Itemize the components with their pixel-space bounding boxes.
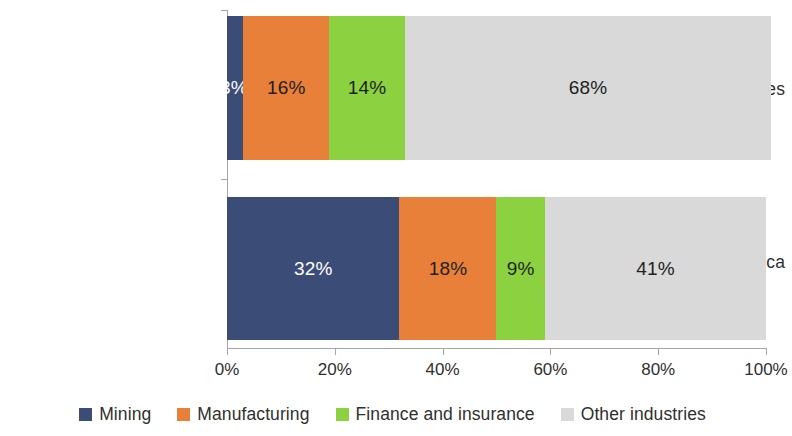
axis-tick [766,349,767,355]
legend-swatch-icon [336,408,349,421]
bar-all-countries: 3% 16% 14% 68% [227,16,771,160]
axis-tick-label: 0% [187,360,267,380]
bar-segment-manufacturing[interactable]: 18% [399,197,496,340]
axis-tick [227,349,228,355]
legend-item-finance-and-insurance[interactable]: Finance and insurance [336,404,535,425]
axis-tick [550,349,551,355]
legend-label: Finance and insurance [356,404,535,425]
segment-value-label: 68% [569,77,608,99]
legend-label: Mining [99,404,151,425]
axis-tick [658,349,659,355]
axis-tick-label: 20% [295,360,375,380]
axis-tick-label: 100% [726,360,792,380]
legend-item-mining[interactable]: Mining [79,404,151,425]
legend-label: Manufacturing [197,404,309,425]
axis-tick-label: 40% [403,360,483,380]
category-axis-line [227,348,767,349]
segment-value-label: 16% [267,77,306,99]
axis-tick [443,349,444,355]
legend-swatch-icon [177,408,190,421]
bar-segment-finance-and-insurance[interactable]: 9% [496,197,545,340]
segment-value-label: 3% [227,77,243,99]
legend-item-other-industries[interactable]: Other industries [561,404,706,425]
segment-value-label: 14% [348,77,387,99]
bar-segment-mining[interactable]: 32% [227,197,399,340]
bar-africa: 32% 18% 9% 41% [227,197,766,340]
bar-segment-finance-and-insurance[interactable]: 14% [329,16,404,160]
chart-legend: MiningManufacturingFinance and insurance… [0,404,785,425]
segment-value-label: 41% [636,258,675,280]
legend-swatch-icon [561,408,574,421]
bar-segment-other-industries[interactable]: 41% [545,197,766,340]
segment-value-label: 32% [294,258,333,280]
axis-tick [335,349,336,355]
axis-tick-label: 80% [618,360,698,380]
legend-item-manufacturing[interactable]: Manufacturing [177,404,309,425]
legend-label: Other industries [581,404,706,425]
bar-segment-mining[interactable]: 3% [227,16,243,160]
bar-segment-other-industries[interactable]: 68% [405,16,772,160]
plot-area: 3% 16% 14% 68% 32% 18% 9% 41% [227,10,766,348]
segment-value-label: 18% [429,258,468,280]
bar-segment-manufacturing[interactable]: 16% [243,16,329,160]
legend-swatch-icon [79,408,92,421]
axis-tick-label: 60% [510,360,590,380]
segment-value-label: 9% [507,258,535,280]
